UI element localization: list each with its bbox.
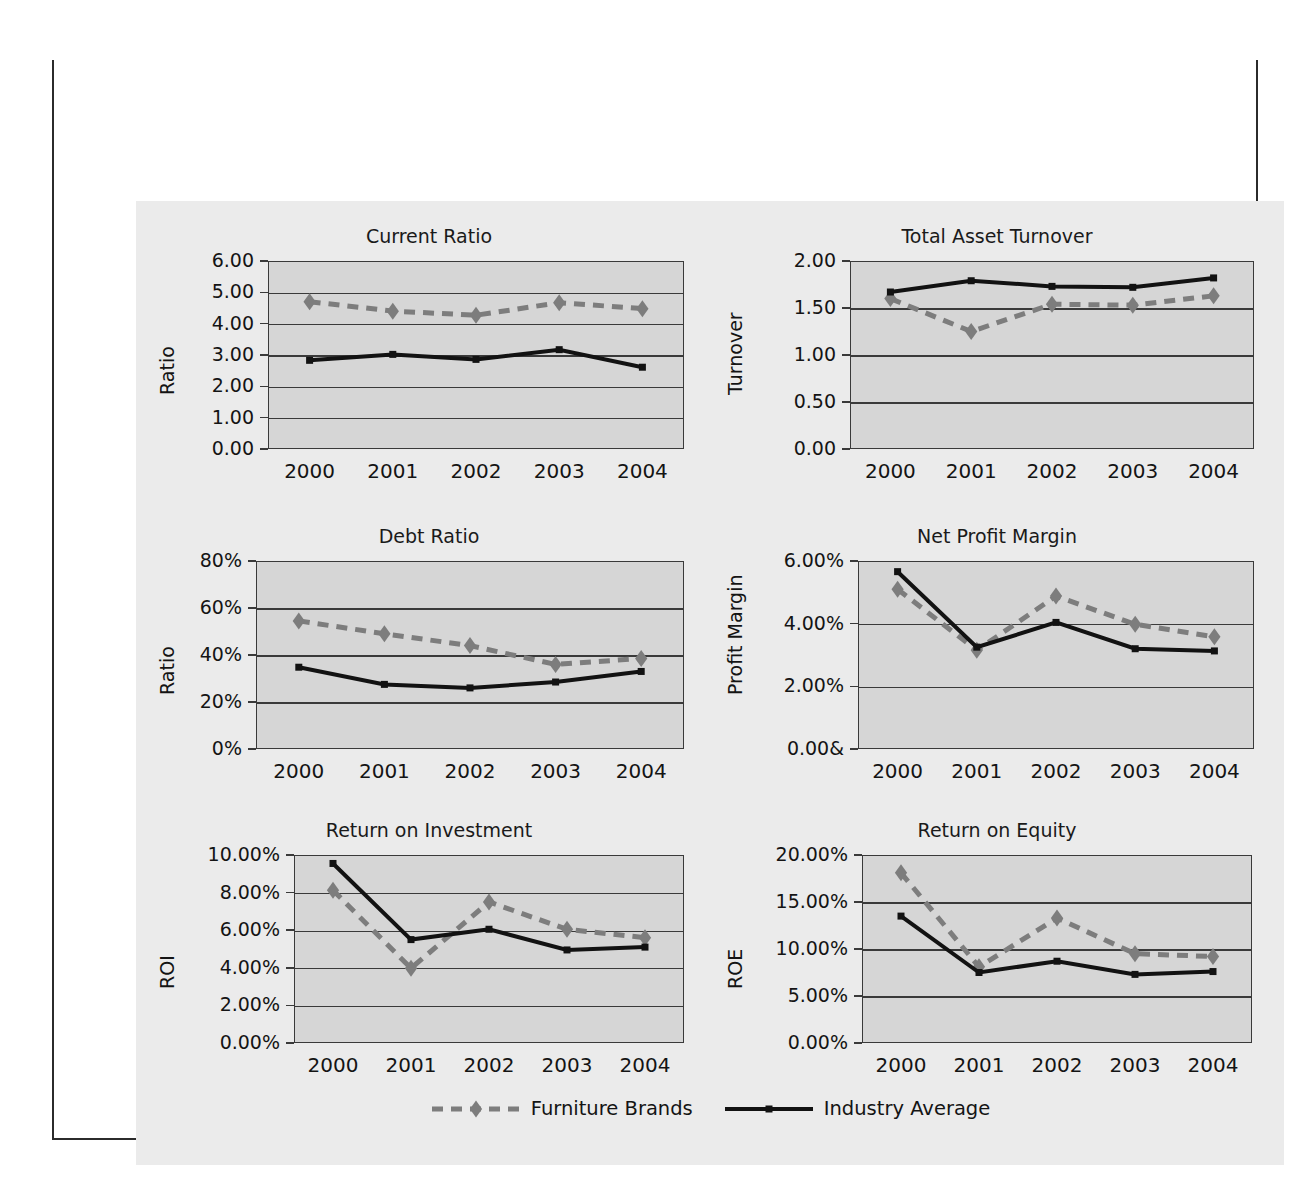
chart-debt-ratio: Debt Ratio80%60%40%20%0%Ratio20002001200… (142, 519, 716, 813)
series-layer (710, 219, 1284, 513)
chart-total-asset-turnover: Total Asset Turnover2.001.501.000.500.00… (710, 219, 1284, 513)
figure-frame: Current Ratio6.005.004.003.002.001.000.0… (52, 60, 1258, 1140)
chart-return-on-equity: Return on Equity20.00%15.00%10.00%5.00%0… (710, 813, 1284, 1107)
chart-current-ratio: Current Ratio6.005.004.003.002.001.000.0… (142, 219, 716, 513)
chart-return-on-investment: Return on Investment10.00%8.00%6.00%4.00… (142, 813, 716, 1107)
diamond-marker-icon (430, 1098, 522, 1120)
series-layer (710, 519, 1284, 813)
legend: Furniture BrandsIndustry Average (136, 1097, 1284, 1120)
legend-entry: Furniture Brands (430, 1097, 693, 1120)
series-layer (142, 219, 716, 513)
chart-net-profit-margin: Net Profit Margin6.00%4.00%2.00%0.00&Pro… (710, 519, 1284, 813)
legend-entry: Industry Average (723, 1097, 990, 1120)
legend-label: Furniture Brands (531, 1097, 693, 1120)
legend-label: Industry Average (824, 1097, 990, 1120)
square-marker-icon (723, 1098, 815, 1120)
series-layer (710, 813, 1284, 1107)
series-layer (142, 813, 716, 1107)
charts-panel: Current Ratio6.005.004.003.002.001.000.0… (136, 201, 1284, 1165)
series-layer (142, 519, 716, 813)
